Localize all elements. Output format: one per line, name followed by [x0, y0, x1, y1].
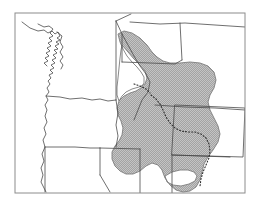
map-canvas [0, 0, 264, 209]
distribution-range-map [0, 0, 264, 209]
range-fill [15, 13, 245, 193]
shaded-distribution-range [15, 13, 245, 193]
